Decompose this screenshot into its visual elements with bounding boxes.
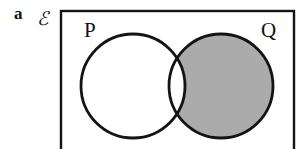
set-label-p: P <box>84 20 96 41</box>
venn-diagram-figure: a ℰ P Q <box>0 0 301 149</box>
venn-diagram-canvas <box>0 0 301 149</box>
shaded-region-q-only <box>0 0 301 149</box>
set-label-q: Q <box>261 20 276 41</box>
